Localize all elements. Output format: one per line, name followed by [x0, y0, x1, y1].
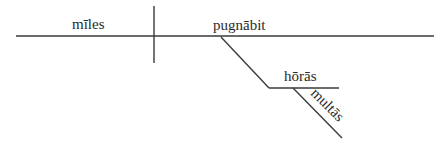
modifier-slant-line	[221, 37, 269, 88]
adjective-word: multās	[308, 85, 348, 125]
verb-word: pugnābit	[213, 17, 266, 33]
sentence-diagram: mīles pugnābit hōrās multās	[0, 0, 441, 148]
subject-word: mīles	[72, 16, 105, 32]
object-word: hōrās	[284, 68, 317, 84]
